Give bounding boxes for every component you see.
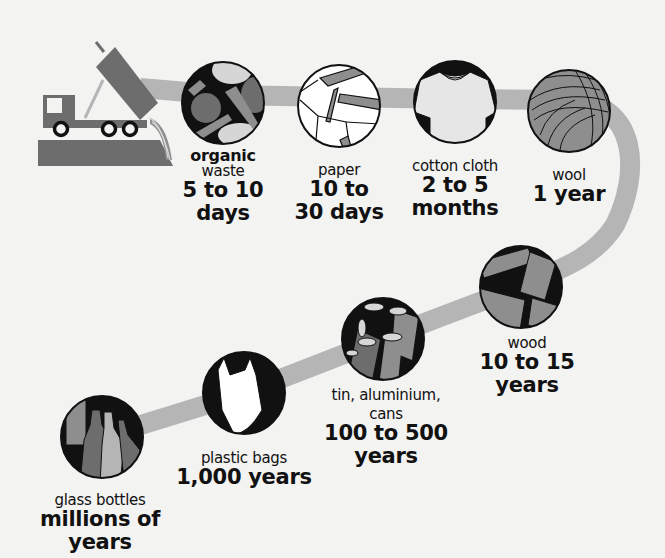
item-duration: 10 to 15 bbox=[479, 351, 574, 374]
item-name: wood bbox=[479, 336, 574, 351]
dump-truck-icon bbox=[38, 42, 173, 166]
cans-icon bbox=[342, 298, 424, 382]
item-glass: glass bottles millions of years bbox=[40, 493, 160, 553]
item-wool: wool 1 year bbox=[533, 168, 606, 206]
item-name: paper bbox=[294, 163, 383, 178]
item-duration: years bbox=[324, 445, 448, 468]
wood-planks-icon bbox=[478, 246, 565, 335]
item-duration: millions of bbox=[40, 508, 160, 531]
item-name: tin, aluminium, bbox=[324, 388, 448, 403]
tshirt-icon bbox=[414, 61, 496, 150]
item-cotton: cotton cloth 2 to 5 months bbox=[412, 159, 499, 219]
item-duration: 10 to bbox=[294, 178, 383, 201]
item-duration: 30 days bbox=[294, 201, 383, 224]
item-tin: tin, aluminium, cans 100 to 500 years bbox=[324, 388, 448, 467]
plastic-bag-icon bbox=[203, 352, 285, 434]
item-wood: wood 10 to 15 years bbox=[479, 336, 574, 396]
item-duration: days bbox=[183, 202, 264, 225]
item-duration: years bbox=[40, 531, 160, 554]
item-duration: 100 to 500 bbox=[324, 422, 448, 445]
item-name: waste bbox=[183, 164, 264, 179]
item-paper: paper 10 to 30 days bbox=[294, 163, 383, 223]
item-name: cans bbox=[324, 407, 448, 422]
item-duration: 2 to 5 bbox=[412, 174, 499, 197]
item-plastic: plastic bags 1,000 years bbox=[176, 451, 311, 489]
item-name: plastic bags bbox=[176, 451, 311, 466]
item-name: cotton cloth bbox=[412, 159, 499, 174]
decomposition-timeline-graphic bbox=[0, 0, 665, 558]
item-duration: 5 to 10 bbox=[183, 179, 264, 202]
yarn-ball-icon bbox=[528, 70, 610, 152]
item-duration: years bbox=[479, 374, 574, 397]
fruit-vegetables-icon bbox=[182, 56, 269, 147]
glass-bottles-icon bbox=[61, 396, 143, 485]
item-organic: organic waste 5 to 10 days bbox=[183, 148, 264, 224]
item-duration: months bbox=[412, 197, 499, 220]
item-duration: 1,000 years bbox=[176, 466, 311, 489]
paper-icon bbox=[298, 65, 382, 150]
item-duration: 1 year bbox=[533, 183, 606, 206]
item-name: glass bottles bbox=[40, 493, 160, 508]
item-name: wool bbox=[533, 168, 606, 183]
